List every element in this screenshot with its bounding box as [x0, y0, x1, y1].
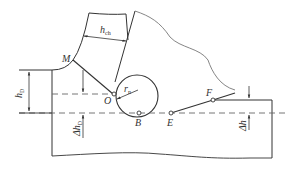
dim-rn: rn	[117, 83, 138, 99]
svg-text:hch: hch	[100, 24, 111, 36]
tool	[73, 11, 235, 117]
label-F: F	[205, 87, 213, 98]
svg-text:Δh: Δh	[237, 120, 248, 132]
svg-text:hD: hD	[13, 88, 25, 98]
label-M: M	[61, 53, 71, 64]
label-E: E	[166, 117, 173, 128]
dim-hch: hch	[84, 24, 126, 41]
dim-delta-h: Δh	[237, 86, 249, 132]
point-B	[137, 111, 141, 115]
label-B: B	[135, 117, 141, 128]
workpiece	[19, 60, 272, 158]
svg-text:ΔhD: ΔhD	[71, 120, 83, 137]
dim-hD: hD	[13, 72, 29, 111]
cutting-diagram: M O B E F hch rn hD ΔhD Δh	[0, 0, 287, 175]
point-O	[112, 92, 116, 96]
point-markers	[112, 92, 215, 115]
point-F	[211, 98, 215, 102]
chip	[73, 13, 128, 60]
svg-text:rn: rn	[124, 83, 131, 95]
dim-delta-hD: ΔhD	[71, 70, 83, 138]
point-E	[169, 111, 173, 115]
label-O: O	[104, 95, 111, 106]
